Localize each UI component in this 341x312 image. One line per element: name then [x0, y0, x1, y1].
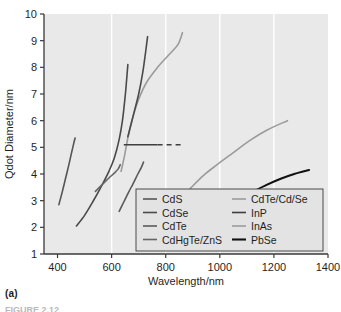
qdot-diameter-vs-wavelength-chart: 12345678910 400600800100012001400 Wavele… [0, 0, 341, 312]
y-tick-label: 3 [31, 195, 37, 207]
y-tick-label: 8 [31, 61, 37, 73]
x-tick-label: 800 [157, 261, 175, 273]
y-tick-label: 5 [31, 141, 37, 153]
x-tick-label: 1000 [208, 261, 232, 273]
legend-label-cdhgte-zns: CdHgTe/ZnS [162, 234, 222, 246]
y-tick-label: 6 [31, 115, 37, 127]
legend-label-inp: InP [251, 207, 267, 219]
y-tick-label: 10 [25, 8, 37, 20]
legend-label-cdse: CdSe [162, 207, 188, 219]
y-tick-label: 7 [31, 88, 37, 100]
y-tick-label: 2 [31, 221, 37, 233]
y-tick-label: 4 [31, 168, 37, 180]
x-axis-title: Wavelength/nm [148, 275, 224, 287]
legend-label-inas: InAs [251, 220, 272, 232]
x-tick-label: 400 [48, 261, 66, 273]
x-axis-tick-labels: 400600800100012001400 [48, 261, 340, 273]
panel-label: (a) [5, 288, 18, 299]
x-tick-label: 1200 [262, 261, 286, 273]
x-tick-label: 600 [102, 261, 120, 273]
y-axis-title: Qdot Diameter/nm [3, 89, 15, 179]
figure-panel-a: 12345678910 400600800100012001400 Wavele… [0, 0, 341, 312]
x-tick-label: 1400 [316, 261, 340, 273]
figure-caption: FIGURE 2.12 [5, 305, 59, 312]
chart-legend: CdSCdSeCdTeCdHgTe/ZnSCdTe/Cd/SeInPInAsPb… [136, 189, 323, 251]
legend-label-cdte-cd-se: CdTe/Cd/Se [251, 193, 308, 205]
y-axis-tick-labels: 12345678910 [25, 8, 37, 260]
y-tick-label: 1 [31, 248, 37, 260]
legend-label-cds: CdS [162, 193, 182, 205]
legend-label-pbse: PbSe [251, 234, 277, 246]
legend-label-cdte: CdTe [162, 220, 187, 232]
y-tick-label: 9 [31, 35, 37, 47]
